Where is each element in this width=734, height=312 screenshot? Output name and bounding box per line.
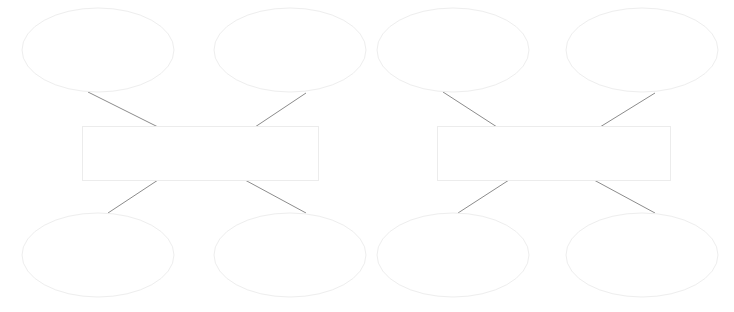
ellipse-left-top-1[interactable] <box>22 8 174 92</box>
connector-left-bottom-1 <box>108 180 158 213</box>
connector-right-top-1 <box>443 92 497 127</box>
ellipse-left-bottom-1[interactable] <box>22 213 174 297</box>
connector-right-bottom-2 <box>594 180 655 213</box>
connector-right-top-2 <box>600 93 655 127</box>
ellipse-right-bottom-2[interactable] <box>566 213 718 297</box>
ellipse-right-bottom-1[interactable] <box>377 213 529 297</box>
center-box-right[interactable] <box>438 127 671 181</box>
connector-left-top-1 <box>88 92 158 127</box>
ellipse-right-top-1[interactable] <box>377 8 529 92</box>
ellipse-left-top-2[interactable] <box>214 8 366 92</box>
center-box-left[interactable] <box>83 127 319 181</box>
concept-map-diagram <box>0 0 734 312</box>
diagram-canvas <box>0 0 734 312</box>
ellipse-right-top-2[interactable] <box>566 8 718 92</box>
connector-right-bottom-1 <box>458 180 509 213</box>
connector-left-bottom-2 <box>245 180 306 213</box>
connector-left-top-2 <box>255 93 306 127</box>
ellipse-left-bottom-2[interactable] <box>214 213 366 297</box>
shape-layer <box>22 8 718 297</box>
